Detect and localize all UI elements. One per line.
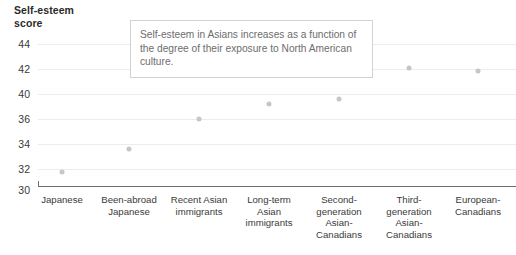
- data-point: [337, 97, 342, 102]
- data-point: [127, 147, 132, 152]
- x-axis-tick-label: Been-abroad Japanese: [92, 194, 166, 217]
- chart-axis-title: Self-esteem score: [14, 4, 74, 30]
- x-axis-tick-label: Long-term Asian immigrants: [232, 194, 306, 229]
- data-point: [476, 69, 481, 74]
- x-axis-line: [38, 186, 516, 187]
- y-axis-tick-label: 36: [0, 114, 30, 124]
- data-point: [407, 66, 412, 71]
- y-axis-tick-label: 44: [0, 39, 30, 49]
- y-axis-tick-label: 34: [0, 139, 30, 149]
- y-axis-tick-label: 32: [0, 164, 30, 174]
- gridline: [38, 144, 516, 145]
- y-axis-tick-label: 40: [0, 89, 30, 99]
- chart-container: Self-esteem score 44424036343230 Japanes…: [0, 0, 516, 255]
- gridline: [38, 169, 516, 170]
- x-axis-tick-label: European- Canadians: [441, 194, 515, 217]
- x-axis-tick-label: Second- generation Asian- Canadians: [302, 194, 376, 240]
- gridline: [38, 119, 516, 120]
- x-axis-tick-label: Recent Asian immigrants: [162, 194, 236, 217]
- annotation-callout: Self-esteem in Asians increases as a fun…: [130, 20, 373, 78]
- data-point: [60, 170, 65, 175]
- gridline: [38, 94, 516, 95]
- x-axis-tick-label: Japanese: [25, 194, 99, 206]
- x-axis-tick-label: Third- generation Asian- Canadians: [372, 194, 446, 240]
- y-axis-tick-label: 42: [0, 64, 30, 74]
- data-point: [267, 102, 272, 107]
- gridline: [38, 190, 516, 191]
- data-point: [197, 117, 202, 122]
